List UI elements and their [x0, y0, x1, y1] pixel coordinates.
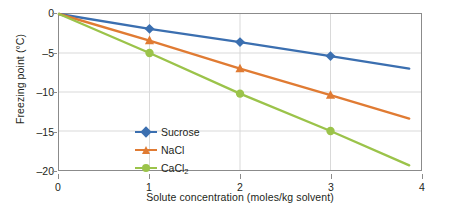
data-point-marker — [145, 49, 153, 57]
series-sucrose — [59, 14, 409, 69]
y-tick-mark — [52, 53, 57, 54]
y-tick-mark — [52, 171, 57, 172]
data-point-marker — [326, 51, 336, 61]
data-point-marker — [236, 89, 244, 97]
y-tick-label: –15 — [2, 126, 54, 138]
chart-figure: Freezing point (°C) 0–5–10–15–20 Sucrose… — [0, 0, 451, 209]
plot-area: SucroseNaClCaCl2 — [58, 13, 422, 171]
legend-label: CaCl2 — [157, 162, 189, 174]
legend-marker-triangle-icon — [142, 146, 150, 154]
data-point-marker — [235, 37, 245, 47]
legend-label: Sucrose — [157, 126, 200, 138]
y-tick-label: –10 — [2, 86, 54, 98]
legend-swatch-triangle-icon — [135, 144, 157, 156]
data-point-marker — [326, 127, 334, 135]
series-line — [59, 14, 409, 165]
legend-swatch-diamond-icon — [135, 126, 157, 138]
x-tick-mark — [331, 174, 332, 179]
y-tick-mark — [52, 13, 57, 14]
y-tick-label: –20 — [2, 165, 54, 177]
y-axis-tick-labels: 0–5–10–15–20 — [0, 13, 54, 171]
series-line — [59, 14, 409, 69]
x-tick-mark — [422, 174, 423, 179]
data-series-layer — [59, 14, 421, 170]
y-tick-mark — [52, 132, 57, 133]
y-tick-label: 0 — [2, 7, 54, 19]
y-tick-label: –5 — [2, 47, 54, 59]
series-cacl2 — [59, 14, 409, 165]
legend-label: NaCl — [157, 144, 184, 156]
x-tick-mark — [149, 174, 150, 179]
legend-item-sucrose[interactable]: Sucrose — [135, 123, 227, 141]
chart-legend: SucroseNaClCaCl2 — [135, 123, 227, 177]
x-tick-mark — [240, 174, 241, 179]
legend-marker-circle-icon — [142, 164, 150, 172]
legend-item-nacl[interactable]: NaCl — [135, 141, 227, 159]
legend-swatch-circle-icon — [135, 162, 157, 174]
legend-marker-diamond-icon — [140, 126, 151, 137]
x-axis-tick-labels: 01234 — [58, 174, 422, 190]
series-line — [59, 14, 409, 119]
x-tick-mark — [58, 174, 59, 179]
data-point-marker — [145, 24, 155, 34]
x-axis-title: Solute concentration (moles/kg solvent) — [58, 191, 422, 203]
series-nacl — [59, 14, 409, 119]
y-tick-mark — [52, 92, 57, 93]
